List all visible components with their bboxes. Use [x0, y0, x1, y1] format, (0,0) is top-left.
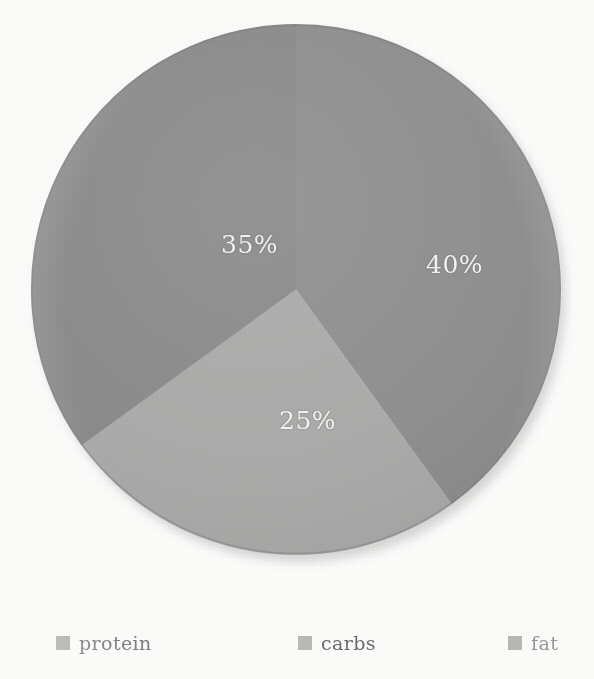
pie-chart-page: 40% 25% 35% protein carbs fat [0, 0, 594, 679]
chart-legend: protein carbs fat [0, 626, 594, 660]
pie-chart: 40% 25% 35% [31, 24, 561, 555]
legend-swatch-icon [508, 636, 522, 650]
legend-item-fat[interactable]: fat [508, 630, 558, 656]
legend-label-protein: protein [79, 634, 152, 653]
legend-label-fat: fat [531, 634, 558, 653]
pie-slices [31, 24, 561, 555]
pie-label-protein: 40% [426, 250, 483, 279]
chart-area: 40% 25% 35% [0, 0, 594, 600]
legend-item-carbs[interactable]: carbs [298, 630, 376, 656]
legend-item-protein[interactable]: protein [56, 630, 152, 656]
legend-swatch-icon [298, 636, 312, 650]
legend-label-carbs: carbs [321, 634, 376, 653]
pie-label-carbs: 25% [279, 406, 336, 435]
legend-swatch-icon [56, 636, 70, 650]
pie-label-fat: 35% [221, 230, 278, 259]
